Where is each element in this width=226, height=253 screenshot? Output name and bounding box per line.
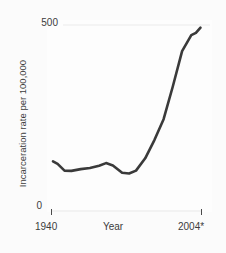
y-axis-title: Incarceration rate per 100,000 (17, 39, 28, 209)
x-axis-tick-end (201, 209, 202, 215)
y-axis-tick-label-bottom: 0 (26, 200, 42, 211)
series-line-path (53, 28, 201, 174)
x-axis-title: Year (0, 221, 226, 232)
incarceration-rate-line-chart: 500 0 Incarceration rate per 100,000 194… (0, 0, 226, 253)
x-axis-line (51, 210, 202, 212)
series-incarceration-rate (0, 0, 226, 253)
y-axis-tick-label-top: 500 (26, 17, 58, 28)
x-axis-tick-start (51, 209, 52, 215)
